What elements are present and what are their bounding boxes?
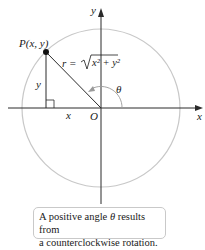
point-label: P(x, y) [18,37,49,50]
y-axis-label: y [90,4,96,16]
callout-box: A positive angle θ results from a counte… [33,207,166,239]
y-leg-label: y [35,78,41,90]
right-angle-marker [46,100,54,108]
point-p [43,49,49,55]
callout-text: A positive angle [39,211,110,222]
origin-label: O [90,110,98,122]
radius-expression: x² + y² [91,57,121,68]
radius-label: r = [62,57,76,69]
callout-line-2: a counterclockwise rotation. [39,236,160,249]
x-leg-label: x [65,109,71,121]
angle-label: θ [116,83,122,95]
x-axis-label: x [196,110,202,122]
angle-arrow-icon [88,86,95,92]
callout-line-1: A positive angle θ results from [39,210,160,236]
y-axis-arrow-icon [98,8,104,17]
